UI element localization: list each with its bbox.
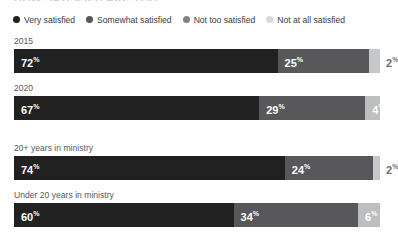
percent-sign: % xyxy=(392,163,398,170)
bar-segment-label: 74% xyxy=(14,161,39,176)
bar-row: Under 20 years in ministry60%34%6% xyxy=(14,187,394,227)
percent-sign: % xyxy=(371,210,377,217)
bar-segment-outside-label: 2% xyxy=(380,49,398,73)
legend-swatch-icon xyxy=(86,16,93,23)
bar-segment-value: 24 xyxy=(292,163,304,175)
bar-row: 201572%25%2% xyxy=(14,33,394,73)
bar-segment-value: 60 xyxy=(21,210,33,222)
percent-sign: % xyxy=(253,210,259,217)
legend-swatch-icon xyxy=(183,16,190,23)
bar-segment-value: 29 xyxy=(266,103,278,115)
bar-segment: 72% xyxy=(14,49,278,73)
percent-sign: % xyxy=(33,163,39,170)
bar-segment: 34% xyxy=(234,203,358,227)
bar-segment: 67% xyxy=(14,96,259,120)
bar-segment-value: 74 xyxy=(21,163,33,175)
bar-row: 202067%29%4% xyxy=(14,80,394,120)
legend-swatch-icon xyxy=(266,16,273,23)
bar-segment-value: 72 xyxy=(21,56,33,68)
bar-segment-label: 6% xyxy=(358,208,377,223)
bar-segment-outside-label: 2% xyxy=(380,156,398,180)
bar-segment-label: 60% xyxy=(14,208,39,223)
percent-sign: % xyxy=(33,103,39,110)
stacked-bar: 74%24%2% xyxy=(14,156,380,180)
bar-row: 20+ years in ministry74%24%2% xyxy=(14,140,394,180)
bar-segment: 24% xyxy=(285,156,373,180)
stacked-bar: 60%34%6% xyxy=(14,203,380,227)
chart-legend: Very satisfiedSomewhat satisfiedNot too … xyxy=(13,13,345,26)
legend-item: Not too satisfied xyxy=(183,15,256,25)
percent-sign: % xyxy=(392,56,398,63)
bar-group: 201572%25%2%202067%29%4% xyxy=(0,33,394,120)
percent-sign: % xyxy=(278,103,284,110)
percent-sign: % xyxy=(33,210,39,217)
legend-item: Somewhat satisfied xyxy=(86,15,172,25)
bar-segment-label: 2% xyxy=(380,54,398,69)
legend-item-label: Not too satisfied xyxy=(194,15,256,25)
bar-segment: 4% xyxy=(365,96,380,120)
bar-segment xyxy=(369,49,380,73)
bar-segment-value: 25 xyxy=(285,56,297,68)
bar-segment: 6% xyxy=(358,203,380,227)
percent-sign: % xyxy=(33,56,39,63)
chart-plot-area: 201572%25%2%202067%29%4%20+ years in min… xyxy=(0,33,394,227)
bar-segment: 60% xyxy=(14,203,234,227)
bar-segment: 74% xyxy=(14,156,285,180)
bar-row-label: 2020 xyxy=(14,82,394,94)
percent-sign: % xyxy=(378,103,384,110)
stacked-bar: 67%29%4% xyxy=(14,96,380,120)
legend-item-label: Not at all satisfied xyxy=(277,15,345,25)
bar-row-label: Under 20 years in ministry xyxy=(14,189,394,201)
bar-segment-label: 29% xyxy=(259,101,284,116)
bar-segment: 25% xyxy=(278,49,370,73)
percent-sign: % xyxy=(304,163,310,170)
bar-segment: 29% xyxy=(259,96,365,120)
percent-sign: % xyxy=(297,56,303,63)
bar-row-label: 20+ years in ministry xyxy=(14,142,394,154)
bar-group: 20+ years in ministry74%24%2%Under 20 ye… xyxy=(0,140,394,227)
chart-title: HOW SATISFIED ARE YOU xyxy=(14,0,157,1)
bar-segment-label: 72% xyxy=(14,54,39,69)
bar-row-label: 2015 xyxy=(14,35,394,47)
bar-segment-label: 2% xyxy=(380,161,398,176)
legend-swatch-icon xyxy=(13,16,20,23)
bar-segment-label: 4% xyxy=(365,101,384,116)
bar-segment xyxy=(373,156,380,180)
bar-segment-label: 24% xyxy=(285,161,310,176)
bar-segment-label: 34% xyxy=(234,208,259,223)
bar-segment-label: 67% xyxy=(14,101,39,116)
bar-segment-value: 67 xyxy=(21,103,33,115)
stacked-bar: 72%25%2% xyxy=(14,49,380,73)
legend-item-label: Somewhat satisfied xyxy=(97,15,172,25)
bar-segment-value: 34 xyxy=(241,210,253,222)
legend-item: Very satisfied xyxy=(13,15,75,25)
bar-segment-label: 25% xyxy=(278,54,303,69)
legend-item: Not at all satisfied xyxy=(266,15,345,25)
legend-item-label: Very satisfied xyxy=(24,15,75,25)
